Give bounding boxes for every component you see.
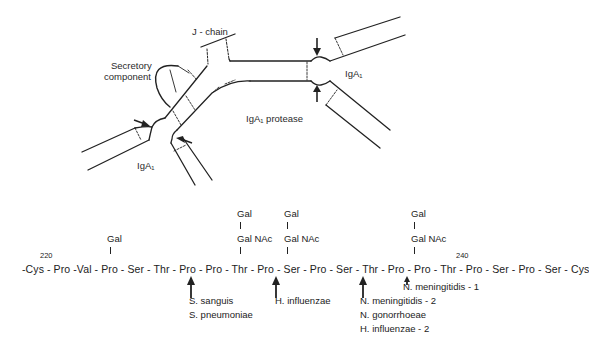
glycan-galnac-3: Gal NAc bbox=[284, 233, 319, 244]
glycan-bond bbox=[414, 247, 415, 254]
organism-s-sanguis: S. sanguis bbox=[189, 294, 233, 307]
iga1-protease-label: IgA₁ protease bbox=[246, 114, 303, 124]
organism-s-pneumoniae: S. pneumoniae bbox=[189, 308, 253, 321]
glycan-galnac-2: Gal NAc bbox=[237, 233, 272, 244]
glycan-bond bbox=[414, 222, 415, 229]
glycan-bond bbox=[240, 247, 241, 254]
residue-number-220: 220 bbox=[40, 251, 53, 260]
glycan-gal-4: Gal bbox=[411, 208, 426, 219]
iga1-left-label: IgA₁ bbox=[137, 161, 154, 171]
residue-number-240: 240 bbox=[456, 251, 469, 260]
organism-n-meningitidis-2: N. meningitidis - 2 bbox=[360, 294, 436, 307]
iga1-right-label: IgA₁ bbox=[345, 69, 362, 79]
glycan-bond bbox=[287, 247, 288, 254]
glycan-gal-1: Gal bbox=[107, 233, 122, 244]
organism-n-gonorrhoeae: N. gonorrhoeae bbox=[360, 308, 426, 321]
glycan-bond bbox=[240, 222, 241, 229]
glycan-bond bbox=[287, 222, 288, 229]
glycan-gal-3: Gal bbox=[284, 208, 299, 219]
glycan-gal-2: Gal bbox=[237, 208, 252, 219]
j-chain-label: J - chain bbox=[192, 27, 228, 37]
organism-h-influenzae: H. influenzae bbox=[275, 294, 330, 307]
secretory-component-label-2: component bbox=[104, 72, 151, 82]
secretory-component-label-1: Secretory bbox=[111, 61, 152, 71]
diagonal-tube-lower bbox=[177, 81, 250, 130]
glycan-bond bbox=[110, 247, 111, 254]
hinge-sequence: -Cys - Pro -Val - Pro - Ser - Thr - Pro … bbox=[22, 263, 589, 275]
organism-h-influenzae-2: H. influenzae - 2 bbox=[360, 322, 429, 335]
organism-n-meningitidis-1: N. meningitidis - 1 bbox=[403, 280, 479, 293]
glycan-galnac-4: Gal NAc bbox=[411, 233, 446, 244]
